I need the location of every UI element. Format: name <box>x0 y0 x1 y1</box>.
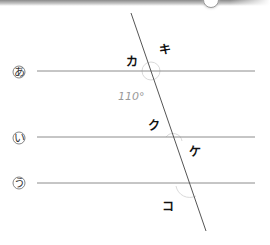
angle-label-ke: ケ <box>189 145 201 159</box>
angle-label-ku: ク <box>148 119 160 133</box>
line-label-i: い <box>13 132 25 145</box>
svg-text:あ: あ <box>14 66 25 79</box>
parallel-lines-diagram: あ い う 110° カ キ ク ケ コ <box>0 0 270 245</box>
angle-label-ko: コ <box>162 200 174 214</box>
angle-label-ki: キ <box>159 43 171 57</box>
angle-label-ka: カ <box>126 55 138 69</box>
given-angle-110: 110° <box>118 90 145 103</box>
line-label-a: あ <box>13 66 25 79</box>
svg-text:う: う <box>14 177 25 190</box>
line-label-u: う <box>13 177 25 190</box>
svg-text:い: い <box>14 132 25 145</box>
